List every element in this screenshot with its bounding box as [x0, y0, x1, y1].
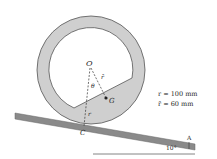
label-theta: θ — [91, 82, 95, 89]
given-r: r = 100 mm — [158, 90, 198, 98]
given-rbar: r̄ = 60 mm — [158, 100, 193, 108]
label-g: G — [109, 97, 115, 105]
label-c: C — [80, 129, 86, 137]
ring-body — [37, 16, 145, 124]
label-a: A — [186, 134, 192, 141]
label-angle: 10° — [166, 144, 177, 151]
label-o: O — [86, 59, 93, 68]
center-of-mass-point — [104, 96, 107, 99]
label-rbar: r̄ — [101, 73, 105, 80]
ring-diagram: O θ r̄ G r C A 10° r = 100 mm r̄ = 60 mm — [0, 0, 217, 159]
